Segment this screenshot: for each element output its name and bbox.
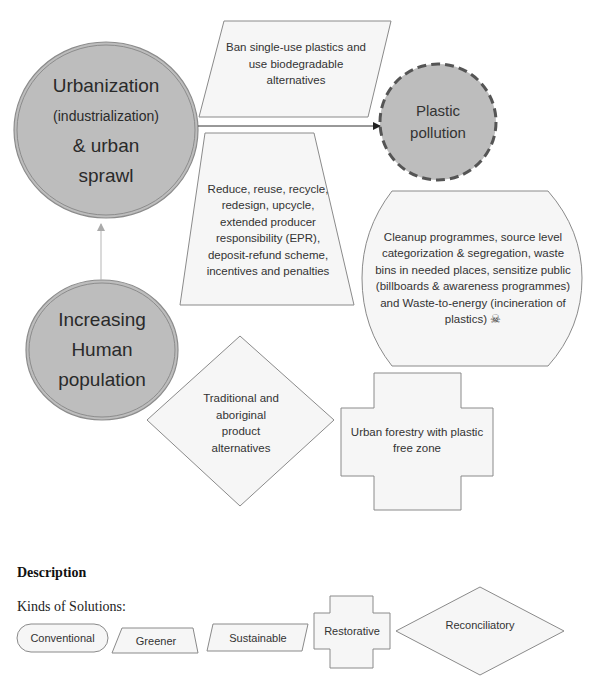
population-line-2: Human: [71, 335, 132, 365]
legend-sustainable-label: Sustainable: [208, 624, 308, 651]
urbanization-line-3: & urban: [73, 131, 140, 161]
traditional-label: Traditional and aboriginal product alter…: [196, 388, 286, 458]
urban-forestry-label: Urban forestry with plastic free zone: [350, 420, 484, 460]
pollution-line-2: pollution: [410, 122, 466, 144]
description-heading: Description: [17, 565, 86, 581]
legend-restorative-label: Restorative: [314, 612, 390, 650]
pollution-line-1: Plastic: [416, 100, 460, 122]
legend-conventional-label: Conventional: [17, 624, 108, 652]
population-line-3: population: [58, 365, 146, 395]
urbanization-label: Urbanization (industrialization) & urban…: [20, 56, 192, 206]
cleanup-label: Cleanup programmes, source level categor…: [370, 210, 576, 346]
urbanization-line-1: Urbanization: [53, 71, 160, 101]
reduce-reuse-label: Reduce, reuse, recycle, redesign, upcycl…: [205, 160, 331, 300]
kinds-of-solutions-label: Kinds of Solutions:: [17, 599, 126, 615]
legend-greener-label: Greener: [114, 628, 198, 653]
population-label: Increasing Human population: [30, 300, 174, 400]
ban-plastics-label: Ban single-use plastics and use biodegra…: [226, 34, 366, 94]
legend-reconciliatory-label: Reconciliatory: [420, 612, 540, 638]
population-line-1: Increasing: [58, 305, 146, 335]
urbanization-line-2: (industrialization): [53, 101, 159, 131]
urbanization-line-4: sprawl: [79, 161, 134, 191]
plastic-pollution-label: Plastic pollution: [390, 92, 486, 152]
